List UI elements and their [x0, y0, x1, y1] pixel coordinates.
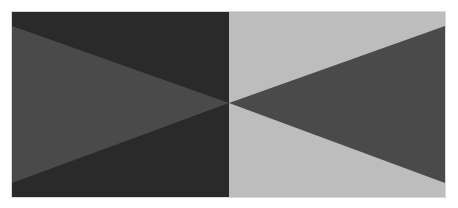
illusion-canvas: [0, 0, 458, 208]
illusion-figure: [0, 0, 458, 208]
